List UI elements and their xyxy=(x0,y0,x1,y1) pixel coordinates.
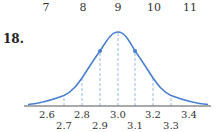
inflection-point-left xyxy=(98,49,102,53)
x-tick-label: 3.4 xyxy=(181,109,197,120)
x-tick-label: 2.7 xyxy=(56,120,72,131)
x-tick-label: 2.6 xyxy=(39,109,55,120)
x-tick-label: 3.3 xyxy=(163,120,179,131)
x-tick-label: 3.2 xyxy=(145,109,161,120)
inflection-point-right xyxy=(133,49,137,53)
x-tick-label: 2.9 xyxy=(92,120,108,131)
x-tick-label: 2.8 xyxy=(74,109,90,120)
x-tick-label: 3.0 xyxy=(110,109,126,120)
dashed-guides xyxy=(64,32,171,106)
x-tick-label: 3.1 xyxy=(127,120,143,131)
